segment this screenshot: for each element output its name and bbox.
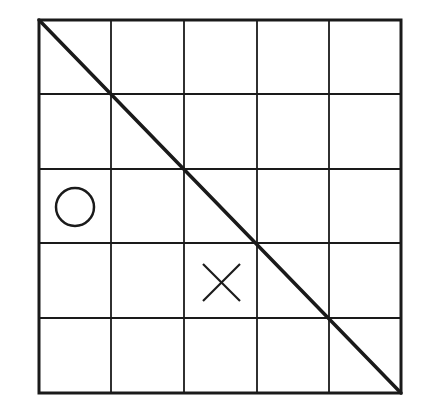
- cross-mark: [203, 264, 240, 301]
- circle-mark: [56, 188, 94, 226]
- grid-diagram: [0, 0, 422, 410]
